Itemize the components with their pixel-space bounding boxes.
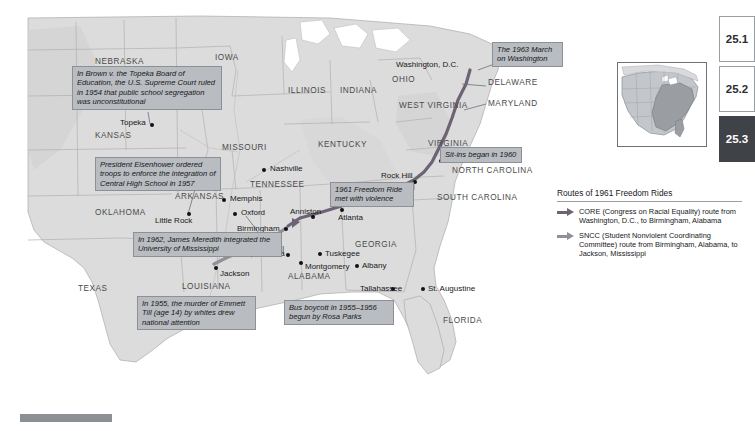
arrow-right-icon <box>557 232 574 241</box>
state-label: ILLINOIS <box>288 86 326 95</box>
state-label: GEORGIA <box>355 240 397 249</box>
city-label: St. Augustine <box>428 284 475 293</box>
city-label: Rock Hill <box>381 171 413 180</box>
callout-eisenhower-little-rock: President Eisenhower ordered troops to e… <box>95 157 221 191</box>
callout-brown-v-board: In Brown v. the Topeka Board of Educatio… <box>72 66 222 110</box>
state-label: ARKANSAS <box>175 192 224 201</box>
state-label: TEXAS <box>78 284 108 293</box>
state-label: KENTUCKY <box>318 140 367 149</box>
state-label: IOWA <box>215 53 239 62</box>
state-label: SOUTH CAROLINA <box>437 193 518 202</box>
legend-item-sncc: SNCC (Student Nonviolent Coordinating Co… <box>557 231 742 259</box>
arrow-right-icon <box>557 208 574 217</box>
state-label: MARYLAND <box>488 99 538 108</box>
city-label: Little Rock <box>155 216 192 225</box>
state-label: NORTH CAROLINA <box>452 166 533 175</box>
callout-sit-ins: Sit-ins began in 1960 <box>440 147 522 163</box>
legend-divider <box>557 201 742 202</box>
state-label: FLORIDA <box>443 316 482 325</box>
callout-march-on-washington: The 1963 March on Washington <box>492 42 563 67</box>
state-label: NEBRASKA <box>95 57 144 66</box>
legend-title: Routes of 1961 Freedom Rides <box>557 188 742 201</box>
state-label: WEST VIRGINIA <box>399 101 468 110</box>
callout-emmett-till: In 1955, the murder of Emmett Till (age … <box>137 296 256 330</box>
city-label: Memphis <box>230 194 262 203</box>
civil-rights-map-figure: NEBRASKA IOWA ILLINOIS INDIANA OHIO KANS… <box>0 0 600 400</box>
callout-freedom-ride-violence: 1961 Freedom Ride met with violence <box>330 182 414 207</box>
city-label: Atlanta <box>338 213 363 222</box>
state-label: INDIANA <box>340 86 377 95</box>
city-label: Jackson <box>220 269 249 278</box>
state-label: ALABAMA <box>288 272 331 281</box>
state-label: MISSOURI <box>222 143 267 152</box>
city-label: Montgomery <box>305 262 349 271</box>
state-label: LOUISIANA <box>182 282 231 291</box>
city-label: Topeka <box>120 118 146 127</box>
state-label: DELAWARE <box>488 78 538 87</box>
legend-item-label: SNCC (Student Nonviolent Coordinating Co… <box>579 231 742 259</box>
state-label: KANSAS <box>95 131 132 140</box>
city-label: Washington, D.C. <box>396 60 458 69</box>
callout-james-meredith: In 1962, James Meredith integrated the U… <box>133 232 282 257</box>
tab-25-1[interactable]: 25.1 <box>719 16 755 62</box>
tab-25-3[interactable]: 25.3 <box>719 116 755 162</box>
united-states-locator-map <box>617 62 707 147</box>
city-label: Nashville <box>270 164 302 173</box>
section-progress-bar <box>20 414 112 422</box>
legend-item-core: CORE (Congress on Racial Equality) route… <box>557 207 742 225</box>
city-label: Anniston <box>290 207 321 216</box>
state-label: TENNESSEE <box>250 180 305 189</box>
city-label: Oxford <box>241 208 265 217</box>
map-legend: Routes of 1961 Freedom Rides CORE (Congr… <box>557 188 742 265</box>
city-label: Tuskegee <box>325 249 360 258</box>
callout-montgomery-bus-boycott: Bus boycott in 1955–1956 begun by Rosa P… <box>284 300 394 325</box>
state-label: OKLAHOMA <box>95 208 146 217</box>
city-label: Tallahassee <box>360 284 402 293</box>
city-label: Albany <box>362 261 386 270</box>
legend-item-label: CORE (Congress on Racial Equality) route… <box>579 207 742 225</box>
tab-25-2[interactable]: 25.2 <box>719 66 755 112</box>
state-label: OHIO <box>392 75 415 84</box>
